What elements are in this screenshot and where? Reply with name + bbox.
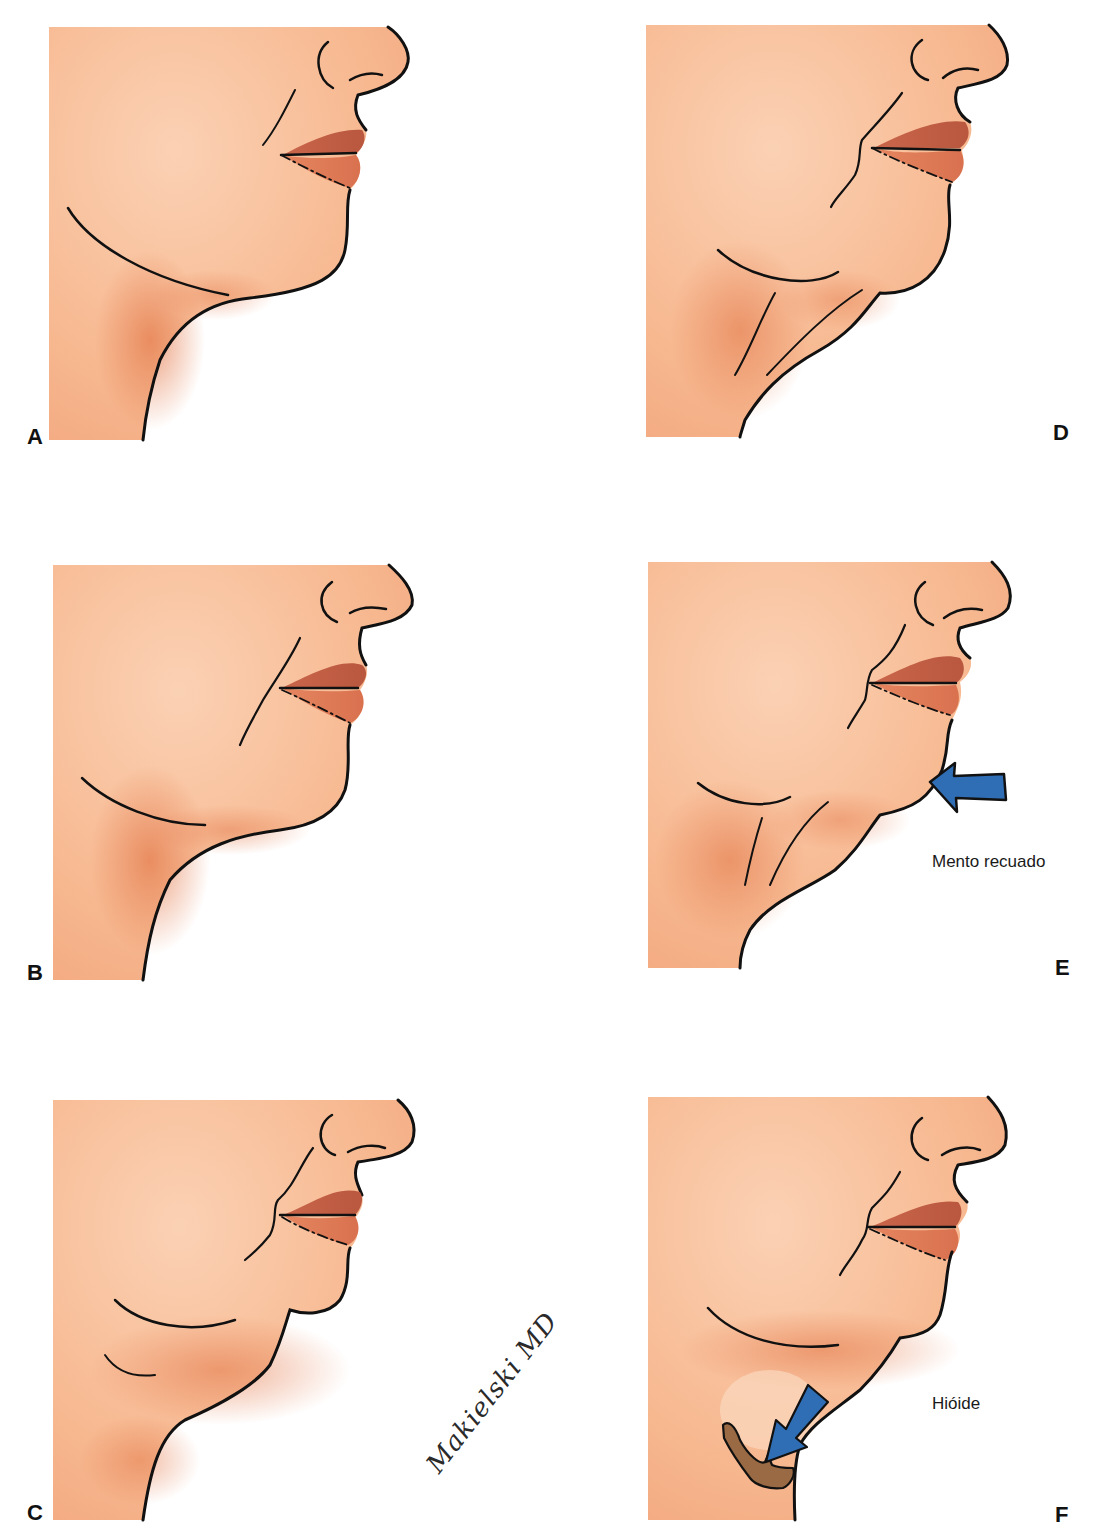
panel-b: B xyxy=(0,540,540,1000)
panel-label-e: E xyxy=(1055,955,1070,981)
panel-d: D xyxy=(600,0,1093,460)
panel-label-d: D xyxy=(1053,420,1069,446)
face-profile-f-illustration xyxy=(600,1080,1093,1532)
face-profile-d-illustration xyxy=(600,0,1093,460)
panel-e: Mento recuado E xyxy=(600,540,1093,1000)
face-profile-b-illustration xyxy=(0,540,540,1000)
panel-label-f: F xyxy=(1055,1502,1068,1528)
caption-hioide: Hióide xyxy=(932,1394,980,1414)
panel-a: A xyxy=(0,0,540,460)
caption-mento-recuado: Mento recuado xyxy=(932,852,1045,872)
face-profile-e-illustration xyxy=(600,540,1093,1000)
panel-label-a: A xyxy=(27,424,43,450)
panel-f: Hióide F xyxy=(600,1080,1093,1532)
panel-c: C xyxy=(0,1080,600,1532)
face-profile-c-illustration xyxy=(0,1080,600,1532)
panel-label-c: C xyxy=(27,1500,43,1526)
panel-label-b: B xyxy=(27,960,43,986)
face-profile-a-illustration xyxy=(0,0,540,460)
